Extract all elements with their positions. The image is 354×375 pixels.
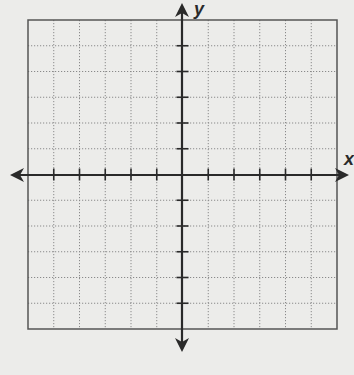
x-axis-label: x bbox=[344, 150, 354, 168]
y-axis-label: y bbox=[194, 0, 204, 18]
